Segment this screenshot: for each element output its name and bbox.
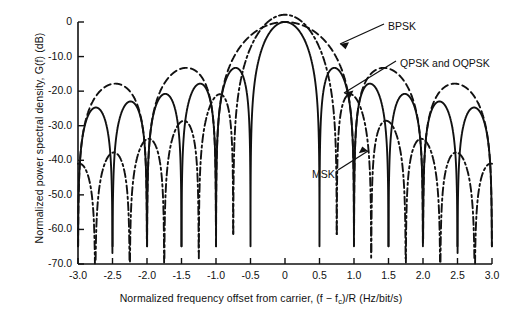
x-axis-label-main: Normalized frequency offset from carrier…	[120, 292, 338, 304]
y-tick-label: 0	[26, 15, 72, 27]
curve-qpsk-and-oqpsk	[216, 22, 354, 246]
y-tick-label: -30.0	[26, 119, 72, 131]
y-tick-label: -50.0	[26, 188, 72, 200]
x-axis-ticks	[78, 258, 492, 264]
curve-qpsk-and-oqpsk	[78, 108, 112, 253]
power-spectral-density-chart: Normalized power spectral density, G(f) …	[0, 0, 522, 318]
y-tick-label: -40.0	[26, 153, 72, 165]
curve-msk	[475, 164, 492, 264]
annotation-bpsk: BPSK	[388, 20, 416, 32]
curve-qpsk-and-oqpsk	[458, 108, 492, 253]
annotation-qpsk-and-oqpsk: QPSK and OQPSK	[400, 57, 490, 69]
y-tick-label: -70.0	[26, 257, 72, 269]
bpsk-arrow	[340, 24, 384, 44]
y-tick-label: -20.0	[26, 84, 72, 96]
annotation-msk: MSK	[312, 168, 335, 180]
qpsk-arrow	[344, 61, 396, 93]
spectral-curves	[78, 15, 492, 264]
curve-msk	[78, 164, 95, 264]
x-tick-label: 3.0	[472, 269, 512, 281]
x-axis-label: Normalized frequency offset from carrier…	[0, 292, 522, 306]
x-axis-label-tail: )/R (Hz/bit/s)	[342, 292, 402, 304]
y-tick-label: -10.0	[26, 50, 72, 62]
y-tick-label: -60.0	[26, 222, 72, 234]
curve-bpsk	[216, 22, 354, 246]
